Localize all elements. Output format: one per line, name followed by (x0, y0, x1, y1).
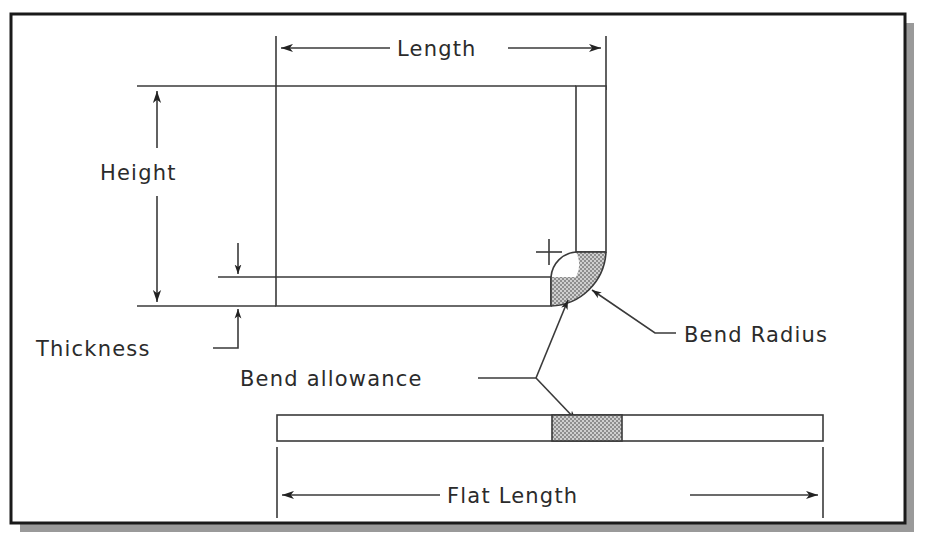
vertical-leg (576, 86, 606, 252)
label-height: Height (100, 161, 177, 185)
diagram-frame (11, 14, 905, 523)
flat-strip (277, 415, 823, 441)
label-bend-allowance: Bend allowance (240, 367, 423, 391)
flat-strip-allowance-zone (552, 415, 622, 441)
label-length: Length (397, 37, 477, 61)
label-bend-radius: Bend Radius (684, 323, 828, 347)
label-thickness: Thickness (35, 337, 151, 361)
bend-diagram-svg: Length Height Thickness Bend Radius Bend… (0, 0, 947, 547)
label-flat-length: Flat Length (447, 484, 578, 508)
horizontal-arm (276, 277, 551, 306)
diagram-canvas: Length Height Thickness Bend Radius Bend… (0, 0, 947, 547)
